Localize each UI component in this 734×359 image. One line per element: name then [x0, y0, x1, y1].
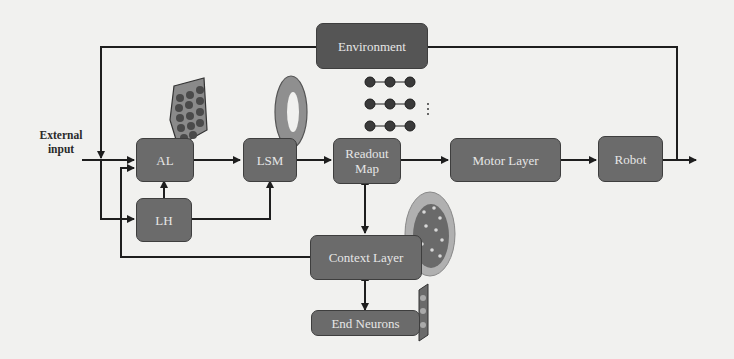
node-context-layer: Context Layer [310, 235, 422, 280]
end-neurons-icon [419, 284, 428, 341]
node-robot-label: Robot [615, 152, 647, 167]
al-glomeruli-icon [170, 78, 207, 146]
node-readout-map: Readout Map [333, 138, 401, 184]
neuron-chain-icon [365, 77, 429, 131]
edge-lh-to-lsm [192, 181, 270, 219]
node-lh: LH [136, 198, 192, 242]
node-lsm-label: LSM [257, 153, 284, 168]
node-lsm: LSM [243, 138, 297, 182]
node-environment: Environment [316, 23, 428, 69]
node-context-layer-label: Context Layer [329, 250, 404, 265]
node-environment-label: Environment [338, 39, 406, 54]
node-motor-layer-label: Motor Layer [472, 153, 538, 168]
node-al-label: AL [156, 153, 173, 168]
node-end-neurons-label: End Neurons [331, 316, 399, 331]
node-motor-layer: Motor Layer [450, 138, 561, 182]
node-lh-label: LH [155, 213, 172, 228]
node-end-neurons: End Neurons [311, 310, 420, 336]
node-al: AL [136, 138, 194, 182]
node-robot: Robot [598, 136, 663, 182]
external-input-label: External input [38, 128, 84, 156]
node-readout-map-label: Readout Map [342, 146, 392, 176]
